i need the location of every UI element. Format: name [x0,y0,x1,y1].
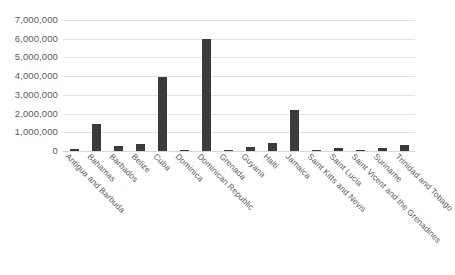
bar[interactable] [158,77,167,151]
bar[interactable] [290,110,299,151]
bar[interactable] [268,143,277,151]
x-axis-tick-label: Saint Vicent and the Grenadines [350,152,442,244]
bars-layer [63,20,415,151]
y-axis-tick-label: 4,000,000 [15,71,58,81]
y-axis: 7,000,0006,000,0005,000,0004,000,0003,00… [0,20,58,151]
y-axis-tick-label: 3,000,000 [15,90,58,100]
bar[interactable] [92,124,101,151]
bar[interactable] [400,145,409,151]
y-axis-tick-label: 7,000,000 [15,15,58,25]
x-axis: Antigua and BarbudaBahamasBarbadosBelize… [63,152,429,275]
y-axis-tick-label: 2,000,000 [15,109,58,119]
y-axis-tick-label: 5,000,000 [15,53,58,63]
bar[interactable] [202,39,211,151]
bar[interactable] [114,146,123,151]
x-axis-tick-label: Haiti [262,152,280,170]
bar[interactable] [136,144,145,151]
y-axis-tick-label: 1,000,000 [15,128,58,138]
y-axis-tick-label: 6,000,000 [15,34,58,44]
y-axis-tick-label: 0 [53,146,58,156]
x-axis-tick-label: Cuba [152,152,172,172]
